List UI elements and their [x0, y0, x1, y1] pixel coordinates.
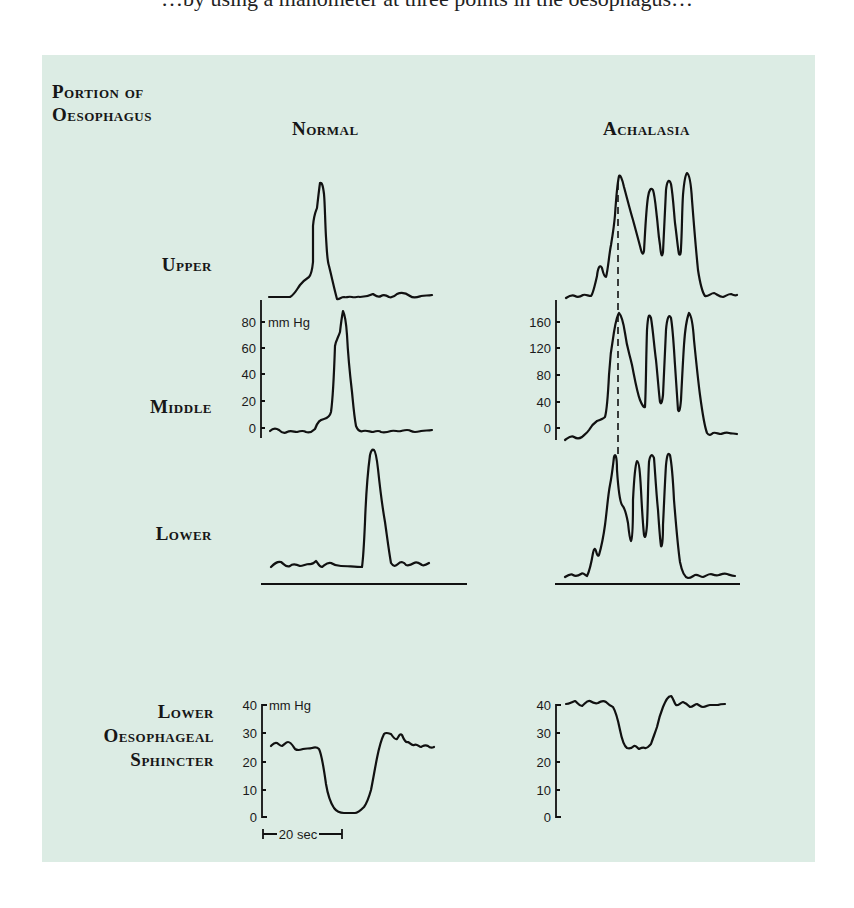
unit-label-normal: mm Hg — [268, 315, 310, 330]
svg-text:0: 0 — [249, 421, 256, 436]
y-axis-achalasia-middle — [556, 300, 560, 440]
svg-text:20: 20 — [243, 755, 257, 770]
trace-achalasia-middle — [565, 313, 737, 440]
unit-label-sphincter: mm Hg — [269, 698, 311, 713]
time-scale-label: 20 sec — [279, 827, 318, 842]
svg-text:40: 40 — [243, 698, 257, 713]
trace-normal-lower — [271, 450, 429, 567]
svg-text:80: 80 — [242, 315, 256, 330]
y-axis-normal-middle — [261, 300, 265, 438]
trace-achalasia-sphincter — [566, 696, 725, 749]
svg-text:60: 60 — [242, 341, 256, 356]
manometry-traces: 80 60 40 20 0 mm Hg 160 120 80 40 0 40 3… — [0, 0, 854, 908]
svg-text:0: 0 — [250, 810, 257, 825]
svg-text:80: 80 — [537, 368, 551, 383]
svg-text:120: 120 — [529, 341, 551, 356]
svg-text:20: 20 — [242, 394, 256, 409]
svg-text:0: 0 — [544, 421, 551, 436]
trace-normal-sphincter — [271, 733, 434, 813]
trace-achalasia-upper — [566, 173, 737, 298]
svg-text:40: 40 — [537, 698, 551, 713]
svg-text:40: 40 — [537, 395, 551, 410]
svg-text:20: 20 — [537, 755, 551, 770]
y-axis-achalasia-sphincter — [556, 705, 561, 817]
svg-text:10: 10 — [537, 783, 551, 798]
y-axis-normal-sphincter — [262, 705, 267, 817]
svg-text:30: 30 — [243, 726, 257, 741]
svg-text:160: 160 — [529, 315, 551, 330]
svg-text:10: 10 — [243, 783, 257, 798]
svg-text:40: 40 — [242, 367, 256, 382]
trace-normal-upper — [269, 183, 432, 299]
svg-text:0: 0 — [544, 810, 551, 825]
trace-achalasia-lower — [565, 454, 735, 578]
svg-text:30: 30 — [537, 726, 551, 741]
